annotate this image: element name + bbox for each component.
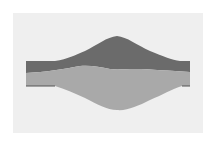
upper-layer — [26, 36, 190, 73]
streamgraph — [0, 0, 213, 143]
lower-layer — [26, 66, 190, 110]
